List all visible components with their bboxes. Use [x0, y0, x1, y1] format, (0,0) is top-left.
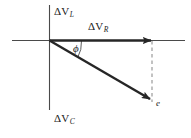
resistor-voltage-subscript: R: [104, 25, 109, 34]
inductor-voltage-label: ΔVL: [54, 5, 74, 17]
phasor-diagram: ΔVL ΔVR ΔVC ϕ e: [0, 0, 191, 138]
phase-angle-label: ϕ: [73, 42, 79, 54]
resistor-voltage-label: ΔVR: [88, 20, 108, 32]
capacitor-voltage-text: ΔV: [54, 112, 69, 124]
capacitor-voltage-subscript: C: [70, 117, 75, 126]
capacitor-voltage-label: ΔVC: [54, 112, 75, 124]
inductor-voltage-text: ΔV: [54, 5, 69, 17]
diagonal-arrow-icon: [50, 41, 151, 100]
resistor-voltage-text: ΔV: [88, 20, 103, 32]
emf-label: e: [156, 98, 160, 108]
inductor-voltage-subscript: L: [70, 10, 74, 19]
